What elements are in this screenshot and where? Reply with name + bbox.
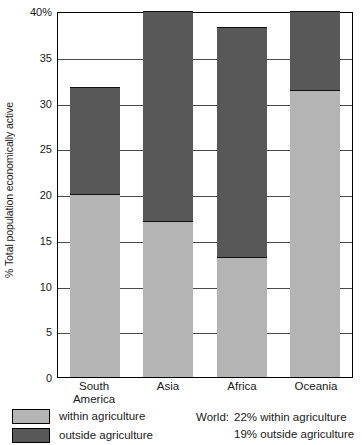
legend-swatch-outside-icon: [12, 428, 50, 443]
y-tick-label: 20: [40, 189, 52, 201]
x-axis-label: Africa: [205, 380, 279, 406]
x-axis-label: Oceania: [279, 380, 353, 406]
bar-segment-outside-agriculture[interactable]: [217, 27, 267, 258]
legend-label-outside: outside agriculture: [59, 429, 153, 441]
y-tick-label: 10: [40, 281, 52, 293]
stacked-bar[interactable]: [143, 11, 193, 377]
bar-group: [58, 13, 352, 377]
stacked-bar[interactable]: [290, 11, 340, 377]
bar-segment-within-agriculture[interactable]: [290, 90, 340, 377]
legend-swatch-within-icon: [12, 409, 50, 424]
stacked-bar[interactable]: [70, 87, 120, 377]
bar-segment-outside-agriculture[interactable]: [143, 11, 193, 221]
x-axis-category-labels: SouthAmericaAsiaAfricaOceania: [57, 380, 353, 406]
world-annotation: World: 22% within agriculture World: 19%…: [196, 409, 354, 443]
y-axis-title: % Total population economically active: [0, 0, 18, 380]
world-annotation-outside: 19% outside agriculture: [234, 426, 354, 443]
bar-slot: [58, 13, 132, 377]
world-annotation-line-1: World: 22% within agriculture: [196, 409, 354, 426]
y-tick-label: 35: [40, 52, 52, 64]
bar-segment-within-agriculture[interactable]: [70, 194, 120, 377]
y-tick-label: 5: [46, 326, 52, 338]
x-axis-label: Asia: [131, 380, 205, 406]
bar-slot: [132, 13, 206, 377]
bar-segment-within-agriculture[interactable]: [217, 257, 267, 377]
y-tick-label: 25: [40, 143, 52, 155]
y-tick-label: 0: [46, 372, 52, 384]
legend: within agriculture outside agriculture: [12, 407, 192, 445]
y-axis-tick-labels: 0510152025303540%: [18, 0, 56, 390]
bar-segment-outside-agriculture[interactable]: [290, 11, 340, 90]
bar-slot: [205, 13, 279, 377]
plot-area: [57, 12, 353, 378]
legend-label-within: within agriculture: [59, 410, 145, 422]
world-annotation-line-2: World: 19% outside agriculture: [196, 426, 354, 443]
world-annotation-within: 22% within agriculture: [234, 409, 347, 426]
y-axis-title-text: % Total population economically active: [3, 102, 15, 278]
y-tick-label: 30: [40, 98, 52, 110]
stacked-bar[interactable]: [217, 27, 267, 377]
bar-slot: [279, 13, 353, 377]
legend-item-outside: outside agriculture: [12, 426, 192, 444]
legend-item-within: within agriculture: [12, 407, 192, 425]
x-axis-label: SouthAmerica: [57, 380, 131, 406]
y-tick-label: 40%: [30, 6, 52, 18]
bar-segment-outside-agriculture[interactable]: [70, 87, 120, 194]
y-tick-label: 15: [40, 235, 52, 247]
world-annotation-key: World:: [196, 409, 229, 426]
bar-segment-within-agriculture[interactable]: [143, 221, 193, 377]
